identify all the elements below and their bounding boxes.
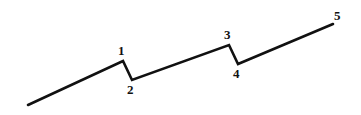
vertex-label-1: 1 bbox=[118, 44, 125, 57]
vertex-label-4: 4 bbox=[233, 67, 240, 80]
vertex-label-5: 5 bbox=[334, 9, 341, 22]
zigzag-polyline-svg bbox=[0, 0, 361, 115]
vertex-label-2: 2 bbox=[127, 83, 134, 96]
zigzag-polyline bbox=[28, 24, 333, 105]
vertex-label-3: 3 bbox=[224, 28, 231, 41]
zigzag-figure: 12345 bbox=[0, 0, 361, 115]
